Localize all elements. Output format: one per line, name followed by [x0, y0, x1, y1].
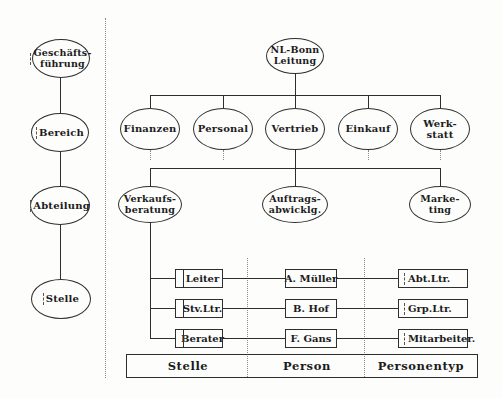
- connector-line: [337, 308, 398, 309]
- connector-line: [295, 95, 296, 108]
- dash-tick-icon: [30, 200, 31, 212]
- node-label: Stelle: [46, 293, 79, 305]
- dash-tick-icon: [404, 273, 405, 285]
- node-label: Verkaufs- beratung: [124, 194, 176, 216]
- box-label: Mitarbeiter.: [408, 333, 475, 344]
- node-label: Marke- ting: [420, 194, 459, 216]
- box-label: Abt.Ltr.: [408, 273, 450, 284]
- node-abteilung: Abteilung: [30, 186, 90, 225]
- dotted-stub: [223, 150, 224, 160]
- legend-label: Stelle: [168, 359, 209, 373]
- connector-line: [368, 95, 369, 108]
- dash-tick-icon: [30, 53, 31, 65]
- personentyp-box-grp-ltr: Grp.Ltr.: [398, 299, 468, 318]
- stelle-box-berater: Berater: [175, 329, 223, 348]
- box-label: F. Gans: [291, 333, 332, 344]
- box-label: B. Hof: [293, 303, 329, 314]
- legend-cell-person: Person: [249, 355, 365, 377]
- node-finanzen: Finanzen: [120, 108, 180, 150]
- compartment-divider: [183, 330, 184, 347]
- node-label: Abteilung: [33, 200, 90, 212]
- node-label: Bereich: [39, 127, 84, 139]
- connector-line: [150, 308, 175, 309]
- node-nl-bonn-leitung: NL-Bonn Leitung: [266, 38, 324, 74]
- node-auftragsabwicklung: Auftrags- abwicklg.: [262, 186, 328, 223]
- connector-line: [295, 150, 296, 168]
- node-werkstatt: Werk- statt: [410, 108, 470, 150]
- personentyp-box-abt-ltr: Abt.Ltr.: [398, 269, 468, 288]
- compartment-divider: [183, 270, 184, 287]
- legend-band: Stelle Person Personentyp: [126, 354, 478, 378]
- box-label: A. Müller: [285, 273, 337, 284]
- node-stelle: Stelle: [31, 279, 91, 319]
- node-label: Personal: [198, 123, 248, 135]
- stelle-box-stv-ltr: Stv.Ltr.: [175, 299, 223, 318]
- connector-line: [150, 338, 175, 339]
- dash-tick-icon: [36, 127, 37, 139]
- node-verkaufsberatung: Verkaufs- beratung: [118, 186, 182, 223]
- connector-line: [150, 223, 151, 338]
- connector-line: [150, 168, 151, 187]
- dotted-stub: [150, 150, 151, 160]
- personentyp-box-mitarbeiter: Mitarbeiter.: [398, 329, 468, 348]
- person-box-f-gans: F. Gans: [285, 329, 337, 348]
- node-label: Werk- statt: [423, 118, 457, 141]
- node-label: Auftrags- abwicklg.: [269, 194, 321, 216]
- legend-cell-stelle: Stelle: [127, 355, 249, 377]
- connector-line: [337, 278, 398, 279]
- connector-line: [223, 278, 285, 279]
- connector-line: [337, 338, 398, 339]
- hierarchy-connector-line: [60, 58, 61, 300]
- dash-tick-icon: [43, 293, 44, 305]
- connector-line: [223, 338, 285, 339]
- box-label: Leiter: [186, 273, 219, 284]
- legend-label: Personentyp: [378, 359, 465, 373]
- node-vertrieb: Vertrieb: [265, 108, 325, 150]
- person-box-a-mueller: A. Müller: [285, 269, 337, 288]
- node-label: Einkauf: [345, 123, 390, 135]
- connector-line: [223, 95, 224, 108]
- dash-tick-icon: [404, 303, 405, 315]
- panel-separator-dotted-line: [105, 18, 106, 378]
- legend-label: Person: [283, 359, 331, 373]
- connector-line: [440, 168, 441, 187]
- org-structure-figure: Geschäfts- führung Bereich Abteilung Ste…: [0, 0, 502, 398]
- dotted-stub: [368, 150, 369, 160]
- node-label: NL-Bonn Leitung: [271, 45, 320, 67]
- box-label: Berater: [181, 333, 224, 344]
- connector-line: [150, 278, 175, 279]
- person-box-b-hof: B. Hof: [285, 299, 337, 318]
- stelle-box-leiter: Leiter: [175, 269, 223, 288]
- node-label: Geschäfts- führung: [33, 48, 91, 70]
- node-personal: Personal: [193, 108, 253, 150]
- node-label: Vertrieb: [271, 123, 318, 135]
- legend-cell-personentyp: Personentyp: [365, 355, 477, 377]
- node-geschaeftsfuehrung: Geschäfts- führung: [32, 39, 90, 78]
- connector-line: [150, 95, 151, 108]
- connector-line: [223, 308, 285, 309]
- node-einkauf: Einkauf: [338, 108, 398, 150]
- box-label: Grp.Ltr.: [408, 303, 452, 314]
- dash-tick-icon: [404, 333, 405, 345]
- connector-line: [295, 168, 296, 187]
- box-label: Stv.Ltr.: [183, 303, 223, 314]
- compartment-divider: [183, 300, 184, 317]
- dotted-stub: [440, 150, 441, 160]
- connector-line: [295, 74, 296, 95]
- connector-line: [440, 95, 441, 108]
- node-bereich: Bereich: [31, 113, 89, 152]
- node-marketing: Marke- ting: [409, 186, 471, 223]
- node-label: Finanzen: [124, 123, 177, 135]
